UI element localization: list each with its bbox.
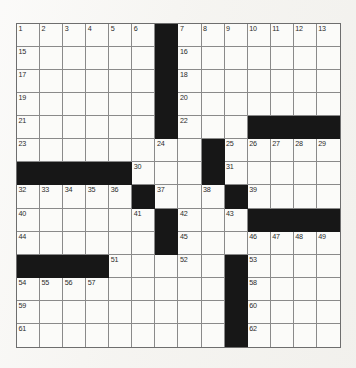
- grid-open-cell[interactable]: [225, 116, 248, 139]
- grid-open-cell[interactable]: [317, 278, 340, 301]
- grid-open-cell[interactable]: 52: [178, 255, 201, 278]
- grid-open-cell[interactable]: [63, 116, 86, 139]
- grid-open-cell[interactable]: [225, 232, 248, 255]
- grid-open-cell[interactable]: [40, 47, 63, 70]
- grid-open-cell[interactable]: [294, 324, 317, 347]
- grid-open-cell[interactable]: 45: [178, 232, 201, 255]
- grid-open-cell[interactable]: [63, 209, 86, 232]
- grid-open-cell[interactable]: [86, 209, 109, 232]
- grid-open-cell[interactable]: [294, 301, 317, 324]
- grid-open-cell[interactable]: 37: [155, 185, 178, 208]
- grid-open-cell[interactable]: 58: [248, 278, 271, 301]
- grid-open-cell[interactable]: [63, 232, 86, 255]
- grid-open-cell[interactable]: 49: [317, 232, 340, 255]
- grid-open-cell[interactable]: [317, 162, 340, 185]
- grid-open-cell[interactable]: 48: [294, 232, 317, 255]
- grid-open-cell[interactable]: 26: [248, 139, 271, 162]
- grid-open-cell[interactable]: [248, 70, 271, 93]
- grid-open-cell[interactable]: 56: [63, 278, 86, 301]
- grid-open-cell[interactable]: 22: [178, 116, 201, 139]
- grid-open-cell[interactable]: [271, 47, 294, 70]
- grid-open-cell[interactable]: [63, 139, 86, 162]
- grid-open-cell[interactable]: 31: [225, 162, 248, 185]
- grid-open-cell[interactable]: [132, 301, 155, 324]
- grid-open-cell[interactable]: [132, 139, 155, 162]
- grid-open-cell[interactable]: 12: [294, 24, 317, 47]
- grid-open-cell[interactable]: [86, 301, 109, 324]
- grid-open-cell[interactable]: [317, 324, 340, 347]
- grid-open-cell[interactable]: [294, 278, 317, 301]
- grid-open-cell[interactable]: [155, 162, 178, 185]
- grid-open-cell[interactable]: [40, 139, 63, 162]
- grid-open-cell[interactable]: [86, 232, 109, 255]
- grid-open-cell[interactable]: 41: [132, 209, 155, 232]
- grid-open-cell[interactable]: 44: [17, 232, 40, 255]
- grid-open-cell[interactable]: 55: [40, 278, 63, 301]
- grid-open-cell[interactable]: 32: [17, 185, 40, 208]
- grid-open-cell[interactable]: 15: [17, 47, 40, 70]
- grid-open-cell[interactable]: [155, 324, 178, 347]
- grid-open-cell[interactable]: 36: [109, 185, 132, 208]
- grid-open-cell[interactable]: [155, 301, 178, 324]
- grid-open-cell[interactable]: [40, 232, 63, 255]
- grid-open-cell[interactable]: 57: [86, 278, 109, 301]
- grid-open-cell[interactable]: [202, 324, 225, 347]
- grid-open-cell[interactable]: [178, 139, 201, 162]
- grid-open-cell[interactable]: [109, 209, 132, 232]
- grid-open-cell[interactable]: [248, 47, 271, 70]
- crossword-grid[interactable]: 1234567891011121315161718192021222324252…: [16, 23, 341, 348]
- grid-open-cell[interactable]: [109, 116, 132, 139]
- grid-open-cell[interactable]: 61: [17, 324, 40, 347]
- grid-open-cell[interactable]: 27: [271, 139, 294, 162]
- grid-open-cell[interactable]: 11: [271, 24, 294, 47]
- grid-open-cell[interactable]: [294, 255, 317, 278]
- grid-open-cell[interactable]: [109, 93, 132, 116]
- grid-open-cell[interactable]: 24: [155, 139, 178, 162]
- grid-open-cell[interactable]: [155, 278, 178, 301]
- grid-open-cell[interactable]: 18: [178, 70, 201, 93]
- grid-open-cell[interactable]: [132, 93, 155, 116]
- grid-open-cell[interactable]: [317, 255, 340, 278]
- grid-open-cell[interactable]: [317, 47, 340, 70]
- grid-open-cell[interactable]: [86, 47, 109, 70]
- grid-open-cell[interactable]: [294, 93, 317, 116]
- grid-open-cell[interactable]: [40, 301, 63, 324]
- grid-open-cell[interactable]: [317, 301, 340, 324]
- grid-open-cell[interactable]: 17: [17, 70, 40, 93]
- grid-open-cell[interactable]: 46: [248, 232, 271, 255]
- grid-open-cell[interactable]: [155, 255, 178, 278]
- grid-open-cell[interactable]: [202, 232, 225, 255]
- grid-open-cell[interactable]: [109, 278, 132, 301]
- grid-open-cell[interactable]: 3: [63, 24, 86, 47]
- grid-open-cell[interactable]: 28: [294, 139, 317, 162]
- grid-open-cell[interactable]: 2: [40, 24, 63, 47]
- grid-open-cell[interactable]: 13: [317, 24, 340, 47]
- grid-open-cell[interactable]: [225, 47, 248, 70]
- grid-open-cell[interactable]: 47: [271, 232, 294, 255]
- grid-open-cell[interactable]: 60: [248, 301, 271, 324]
- grid-open-cell[interactable]: [86, 324, 109, 347]
- grid-open-cell[interactable]: [294, 47, 317, 70]
- grid-open-cell[interactable]: [225, 93, 248, 116]
- grid-open-cell[interactable]: [132, 116, 155, 139]
- grid-open-cell[interactable]: 21: [17, 116, 40, 139]
- grid-open-cell[interactable]: [271, 255, 294, 278]
- grid-open-cell[interactable]: 42: [178, 209, 201, 232]
- grid-open-cell[interactable]: 29: [317, 139, 340, 162]
- grid-open-cell[interactable]: [132, 324, 155, 347]
- grid-open-cell[interactable]: [86, 93, 109, 116]
- grid-open-cell[interactable]: 40: [17, 209, 40, 232]
- grid-open-cell[interactable]: [132, 255, 155, 278]
- grid-open-cell[interactable]: 43: [225, 209, 248, 232]
- grid-open-cell[interactable]: [317, 93, 340, 116]
- grid-open-cell[interactable]: [109, 324, 132, 347]
- grid-open-cell[interactable]: [40, 93, 63, 116]
- grid-open-cell[interactable]: [40, 209, 63, 232]
- grid-open-cell[interactable]: [178, 185, 201, 208]
- grid-open-cell[interactable]: [63, 70, 86, 93]
- grid-open-cell[interactable]: [109, 70, 132, 93]
- grid-open-cell[interactable]: 54: [17, 278, 40, 301]
- grid-open-cell[interactable]: [132, 70, 155, 93]
- grid-open-cell[interactable]: [294, 162, 317, 185]
- grid-open-cell[interactable]: 16: [178, 47, 201, 70]
